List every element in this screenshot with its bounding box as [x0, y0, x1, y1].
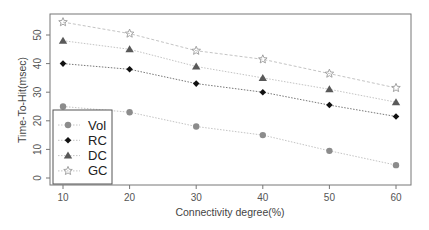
legend-label-vol: Vol	[88, 118, 106, 133]
diamond-marker-icon	[60, 60, 67, 67]
series-line	[63, 41, 396, 102]
series-line	[63, 22, 396, 88]
x-tick-label: 60	[390, 192, 402, 203]
series-line	[63, 107, 396, 166]
legend-label-gc: GC	[88, 163, 108, 178]
star-marker-icon	[259, 55, 268, 63]
circle-marker-icon	[60, 103, 66, 109]
x-tick-label: 50	[324, 192, 336, 203]
x-axis: 102030405060	[57, 185, 402, 203]
x-tick-label: 10	[57, 192, 69, 203]
series-dc	[59, 37, 400, 105]
y-tick-label: 40	[32, 58, 43, 70]
circle-marker-icon	[260, 132, 266, 138]
triangle-marker-icon	[59, 37, 67, 44]
circle-icon	[65, 122, 71, 128]
series-gc	[59, 18, 401, 92]
x-tick-label: 30	[191, 192, 203, 203]
triangle-marker-icon	[392, 98, 400, 105]
diamond-marker-icon	[126, 66, 133, 73]
star-marker-icon	[392, 83, 401, 91]
series-line	[63, 64, 396, 117]
triangle-marker-icon	[259, 74, 267, 81]
circle-marker-icon	[326, 148, 332, 154]
x-tick-label: 20	[124, 192, 136, 203]
y-tick-label: 30	[32, 86, 43, 98]
y-axis: 01020304050	[32, 29, 50, 181]
circle-marker-icon	[126, 109, 132, 115]
y-tick-label: 50	[32, 29, 43, 41]
y-axis-label: Time-To-Hit(msec)	[16, 57, 28, 143]
y-tick-label: 10	[32, 143, 43, 155]
line-chart: 01020304050 102030405060 VolRCDCGC Conne…	[0, 0, 429, 230]
x-axis-label: Connectivity degree(%)	[175, 206, 284, 218]
y-tick-label: 0	[32, 175, 43, 181]
diamond-marker-icon	[326, 102, 333, 109]
star-marker-icon	[59, 18, 68, 26]
legend: VolRCDCGC	[53, 110, 112, 184]
circle-marker-icon	[193, 123, 199, 129]
diamond-marker-icon	[260, 89, 267, 96]
circle-marker-icon	[393, 162, 399, 168]
legend-label-dc: DC	[88, 148, 107, 163]
diamond-marker-icon	[393, 113, 400, 120]
diamond-marker-icon	[193, 80, 200, 87]
x-tick-label: 40	[257, 192, 269, 203]
y-tick-label: 20	[32, 115, 43, 127]
legend-label-rc: RC	[88, 133, 107, 148]
